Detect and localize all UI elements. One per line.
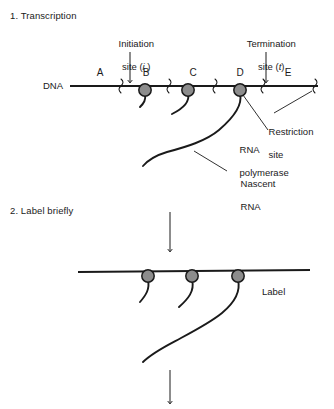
rna-polymerase-circle — [186, 270, 198, 282]
segment-letter-b: B — [139, 67, 153, 79]
nascent-rna-strand-long — [143, 94, 241, 166]
nascent-rna-strand-medium — [172, 94, 188, 114]
label-text-panel2: Label — [262, 286, 285, 298]
segment-letter-a: A — [93, 67, 107, 79]
rna-polymerase-circle — [142, 270, 154, 282]
termination-site-line1: Termination — [247, 38, 296, 49]
initiation-site-label: Initiation site (i ) — [98, 26, 164, 84]
segment-letter-e: E — [281, 67, 295, 79]
nascent-rna-strands-panel1 — [140, 94, 241, 166]
rna-polymerase-circle — [234, 84, 246, 96]
segment-letter-d: D — [233, 67, 247, 79]
rna-polymerase-line1: RNA — [240, 144, 260, 155]
restriction-site-leader-line — [274, 91, 312, 113]
nascent-rna-line2: RNA — [241, 201, 261, 212]
rna-polymerase-circle — [182, 84, 194, 96]
nascent-rna-strand-medium — [179, 280, 193, 307]
panel-2-group — [78, 270, 310, 362]
nascent-rna-line1: Nascent — [241, 178, 276, 189]
rna-polymerase-circle — [232, 270, 244, 282]
nascent-rna-callout: Nascent RNA — [230, 166, 275, 224]
step-1-label: 1. Transcription — [10, 10, 77, 22]
segment-letter-c: C — [186, 67, 200, 79]
step-2-label: 2. Label briefly — [10, 205, 73, 217]
initiation-site-line1: Initiation — [119, 38, 154, 49]
nascent-rna-leader-line — [194, 151, 227, 171]
transcription-diagram: 1. Transcription Initiation site (i ) Te… — [0, 0, 334, 409]
dna-label: DNA — [43, 80, 63, 92]
rna-polymerase-circle — [139, 84, 151, 96]
termination-site-line2-prefix: site ( — [258, 61, 279, 72]
nascent-rna-strands-panel2 — [140, 280, 239, 362]
nascent-rna-strand-short — [140, 280, 149, 302]
